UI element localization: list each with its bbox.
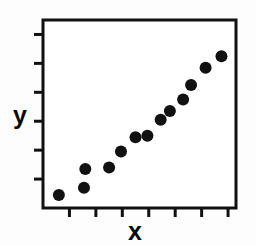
data-point [78, 182, 90, 194]
y-axis-label: y [13, 103, 27, 128]
data-point [79, 163, 91, 175]
data-point [177, 94, 189, 106]
scatter-plot-figure: y x [0, 0, 256, 245]
plot-canvas [0, 0, 256, 245]
data-point [103, 162, 115, 174]
data-point [130, 131, 142, 143]
data-point [215, 50, 227, 62]
data-point [141, 130, 153, 142]
data-point [164, 105, 176, 117]
data-point [115, 146, 127, 158]
data-point [200, 62, 212, 74]
plot-area-background [43, 20, 236, 208]
x-axis-label: x [128, 219, 142, 244]
data-point [155, 114, 167, 126]
data-point [185, 79, 197, 91]
data-point [53, 189, 65, 201]
